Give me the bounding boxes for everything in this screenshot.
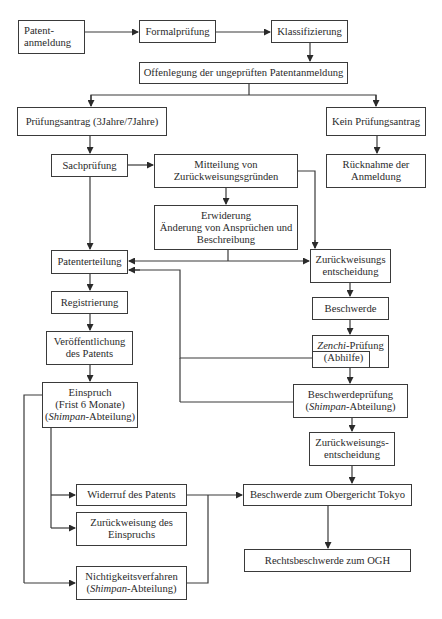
node-widerruf: Widerruf des Patents bbox=[76, 484, 187, 506]
node-ruecknahme: Rücknahme der Anmeldung bbox=[326, 154, 426, 188]
node-patentanmeldung: Patent- anmeldung bbox=[18, 20, 85, 54]
node-formalpruefung: Formalprüfung bbox=[139, 20, 216, 43]
node-zurueckweisungsentscheidung-1: Zurückweisungs entscheidung bbox=[310, 249, 391, 283]
node-mitteilung: Mitteilung von Zurückweisungsgründen bbox=[154, 154, 298, 188]
node-erwiderung: Erwiderung Änderung von Ansprüchen und B… bbox=[154, 205, 298, 250]
node-kein-pruefungsantrag: Kein Prüfungsantrag bbox=[326, 107, 426, 136]
node-beschwerde-obergericht: Beschwerde zum Obergericht Tokyo bbox=[243, 484, 412, 506]
node-veroeffentlichung: Veröffentlichung des Patents bbox=[46, 331, 133, 365]
node-rechtsbeschwerde-ogh: Rechtsbeschwerde zum OGH bbox=[244, 549, 411, 572]
node-registrierung: Registrierung bbox=[51, 291, 128, 314]
node-offenlegung: Offenlegung der ungeprüften Patentanmeld… bbox=[139, 62, 348, 84]
node-zurueckweisung-einspruch: Zurückweisung des Einspruchs bbox=[76, 512, 187, 546]
node-sachpruefung: Sachprüfung bbox=[51, 154, 128, 177]
node-zurueckweisungsentscheidung-2: Zurückweisungs- entscheidung bbox=[309, 432, 395, 466]
node-pruefungsantrag: Prüfungsantrag (3Jahre/7Jahre) bbox=[17, 107, 167, 136]
node-patenterteilung: Patenterteilung bbox=[51, 250, 128, 274]
node-nichtigkeitsverfahren: Nichtigkeitsverfahren (Shimpan-Abteilung… bbox=[76, 566, 187, 600]
patent-procedure-flowchart: Patent- anmeldung Formalprüfung Klassifi… bbox=[0, 0, 442, 619]
node-beschwerde: Beschwerde bbox=[312, 297, 389, 320]
node-einspruch: Einspruch (Frist 6 Monate) (Shimpan-Abte… bbox=[42, 382, 138, 428]
abhilfe-inner-frame bbox=[312, 351, 370, 368]
node-beschwerdepruefung: Beschwerdeprüfung (Shimpan-Abteilung) bbox=[293, 384, 408, 418]
node-klassifizierung: Klassifizierung bbox=[271, 20, 348, 43]
